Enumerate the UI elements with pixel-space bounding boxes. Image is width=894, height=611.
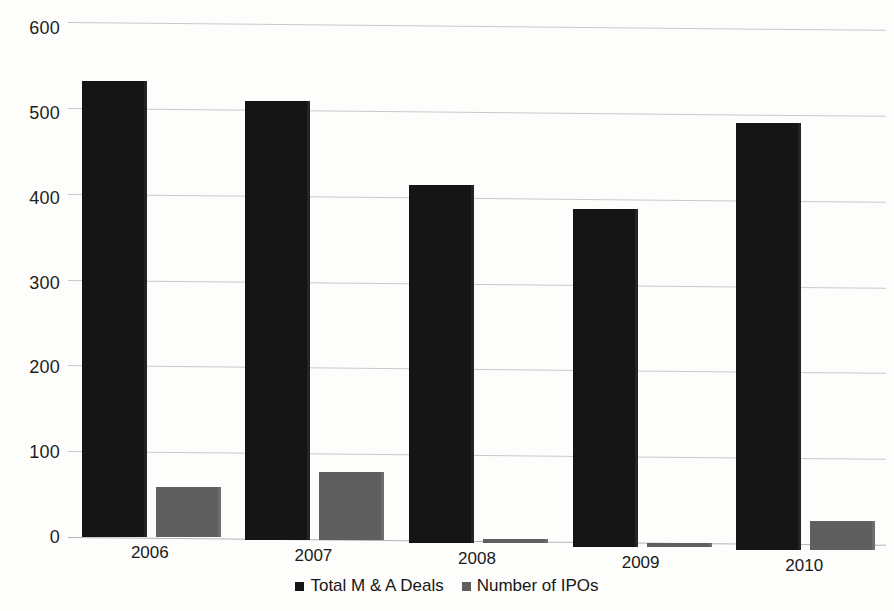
legend-swatch-icon <box>295 582 304 591</box>
bar-2008-total-deals <box>409 185 471 543</box>
y-axis-label: 100 <box>2 442 60 463</box>
legend-label: Total M & A Deals <box>310 576 443 596</box>
y-axis-label: 200 <box>2 357 60 378</box>
y-axis-label: 0 <box>2 527 60 548</box>
x-axis-tick-labels: 20062007200820092010 <box>68 541 886 571</box>
bar-2006-ipos <box>156 487 218 537</box>
legend-item-ipos[interactable]: Number of IPOs <box>462 576 599 596</box>
bar-chart: 0100200300400500600 20062007200820092010… <box>0 0 894 611</box>
bar-groups <box>68 22 886 537</box>
y-axis-label: 300 <box>2 272 60 293</box>
y-axis-label: 400 <box>2 187 60 208</box>
chart-legend: Total M & A DealsNumber of IPOs <box>0 576 894 596</box>
bar-2009-total-deals <box>573 209 635 546</box>
legend-item-total-deals[interactable]: Total M & A Deals <box>295 576 443 596</box>
legend-swatch-icon <box>462 582 471 591</box>
x-axis-label-2010: 2010 <box>785 556 823 576</box>
legend-label: Number of IPOs <box>477 576 599 596</box>
x-axis-label-2009: 2009 <box>622 553 660 573</box>
bar-2006-total-deals <box>82 81 144 537</box>
plot-area <box>68 22 886 537</box>
bar-2010-total-deals <box>736 123 798 550</box>
x-axis-label-2007: 2007 <box>294 546 332 566</box>
bar-2007-ipos <box>319 472 381 541</box>
y-axis-tick-labels: 0100200300400500600 <box>0 0 60 611</box>
y-axis-label: 500 <box>2 102 60 123</box>
x-axis-label-2008: 2008 <box>458 549 496 569</box>
y-axis-label: 600 <box>2 18 60 39</box>
bar-2007-total-deals <box>245 101 307 540</box>
x-axis-label-2006: 2006 <box>131 543 169 563</box>
